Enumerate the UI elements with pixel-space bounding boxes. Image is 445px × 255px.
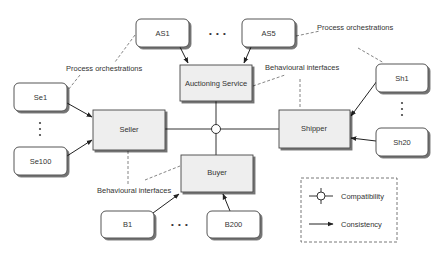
compatibility-hub-icon: [212, 125, 221, 134]
core-box-shipper[interactable]: Shipper: [279, 110, 350, 148]
process-orchestrations-label-left: Process orchestrations: [66, 64, 143, 73]
sh1-label: Sh1: [395, 74, 408, 83]
instance-sh1[interactable]: Sh1: [376, 64, 428, 92]
core-box-seller[interactable]: Seller: [93, 110, 165, 150]
process-orchestrations-label-right: Process orchestrations: [317, 23, 394, 32]
b200-label: B200: [225, 220, 243, 229]
seller-label: Seller: [119, 125, 139, 134]
auctioning-service-label: Auctioning Service: [185, 79, 247, 88]
as5-label: AS5: [261, 29, 275, 38]
shipper-label: Shipper: [301, 124, 327, 133]
shipper-vertical-ellipsis: [401, 102, 403, 116]
se1-label: Se1: [34, 93, 47, 102]
instance-se1[interactable]: Se1: [14, 83, 67, 111]
instance-as5[interactable]: AS5: [242, 19, 295, 47]
behavioural-interfaces-label-top: Behavioural interfaces: [265, 63, 339, 72]
core-box-auctioning-service[interactable]: Auctioning Service: [180, 65, 252, 101]
se100-label: Se100: [30, 157, 52, 166]
legend: Compatibility Consistency: [301, 178, 397, 242]
seller-vertical-ellipsis: [39, 122, 41, 136]
as1-label: AS1: [155, 29, 169, 38]
core-box-buyer[interactable]: Buyer: [181, 155, 253, 192]
instance-b1[interactable]: B1: [101, 211, 154, 238]
buyer-ellipsis: • • •: [171, 220, 189, 229]
architecture-diagram: Auctioning Service Seller Shipper Buyer …: [0, 0, 445, 255]
behavioural-interfaces-label-bottom: Behavioural interfaces: [97, 186, 171, 195]
b1-label: B1: [123, 220, 132, 229]
sh20-label: Sh20: [393, 138, 411, 147]
instance-sh20[interactable]: Sh20: [376, 128, 428, 156]
instance-b200[interactable]: B200: [207, 211, 260, 238]
compatibility-legend-label: Compatibility: [341, 192, 384, 201]
compatibility-connections: [165, 101, 279, 155]
instance-as1[interactable]: AS1: [136, 19, 189, 47]
instance-se100[interactable]: Se100: [14, 147, 67, 175]
buyer-label: Buyer: [207, 168, 227, 177]
as-ellipsis: • • •: [209, 29, 227, 38]
consistency-legend-label: Consistency: [341, 220, 382, 229]
